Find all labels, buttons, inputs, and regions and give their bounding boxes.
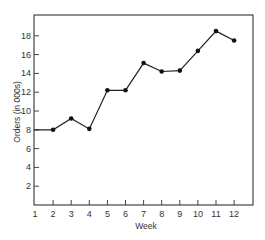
data-point — [141, 61, 146, 66]
data-point — [69, 116, 74, 121]
x-tick-label: 5 — [105, 209, 110, 219]
data-point — [159, 69, 164, 74]
y-tick-label: 12 — [21, 87, 31, 97]
data-point — [232, 38, 237, 43]
x-tick-label: 2 — [51, 209, 56, 219]
y-tick-label: 14 — [21, 68, 31, 78]
y-tick-label: 6 — [26, 144, 31, 154]
y-tick-label: 2 — [26, 181, 31, 191]
line-chart: 24681012141618 123456789101112 Orders (i… — [0, 0, 265, 240]
x-tick-label: 8 — [159, 209, 164, 219]
y-tick-label: 16 — [21, 50, 31, 60]
data-point — [178, 68, 183, 73]
data-point — [214, 29, 219, 34]
data-point — [51, 128, 56, 133]
data-markers — [51, 29, 237, 132]
data-point — [87, 127, 92, 132]
plot-frame — [34, 15, 253, 205]
y-tick-label: 18 — [21, 31, 31, 41]
x-tick-label: 9 — [177, 209, 182, 219]
data-point — [196, 49, 201, 54]
x-tick-label: 7 — [141, 209, 146, 219]
x-axis-title: Week — [135, 221, 157, 231]
x-tick-label: 12 — [229, 209, 239, 219]
orders-line — [34, 31, 234, 130]
y-tick-label: 8 — [26, 125, 31, 135]
x-tick-label: 3 — [69, 209, 74, 219]
data-point — [105, 88, 110, 93]
x-tick-label: 11 — [211, 209, 220, 219]
x-tick-label: 4 — [87, 209, 92, 219]
x-tick-label: 6 — [123, 209, 128, 219]
x-axis: 123456789101112 — [32, 200, 239, 219]
data-point — [123, 88, 128, 93]
y-axis: 24681012141618 — [21, 31, 39, 191]
x-tick-label: 1 — [32, 209, 37, 219]
y-tick-label: 10 — [21, 106, 31, 116]
y-tick-label: 4 — [26, 162, 31, 172]
x-tick-label: 10 — [193, 209, 203, 219]
y-axis-title: Orders (in 000s) — [12, 81, 22, 143]
